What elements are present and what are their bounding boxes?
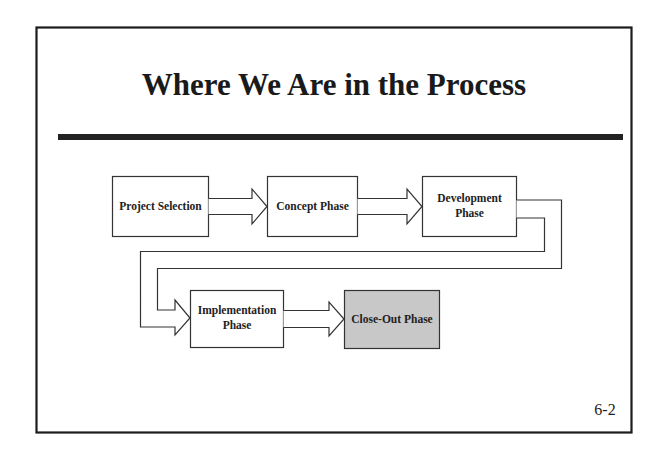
node-label: Concept Phase [276,200,349,213]
node-label-line-1: Implementation [198,304,277,317]
node-label-line-2: Phase [455,207,484,219]
node-label-line-1: Development [437,192,502,205]
node-label: Project Selection [119,200,202,213]
node-implementation-phase: Implementation Phase [191,291,284,348]
node-project-selection: Project Selection [113,177,209,237]
page-number: 6-2 [594,401,615,418]
node-close-out-phase: Close-Out Phase [345,291,440,349]
node-development-phase: Development Phase [423,177,517,237]
slide: Where We Are in the Process Project Sele… [0,0,669,451]
title-rule [58,134,623,140]
node-label-line-2: Phase [223,319,252,331]
slide-title: Where We Are in the Process [142,67,526,102]
node-label: Close-Out Phase [351,313,432,325]
node-concept-phase: Concept Phase [268,177,358,237]
